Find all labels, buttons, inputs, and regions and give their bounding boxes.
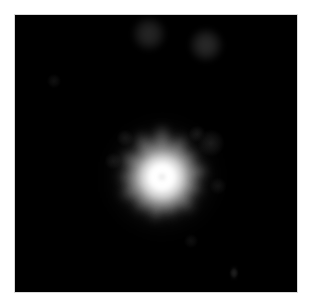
sky-background: Near-infrared / optical image of a brigh…: [15, 15, 297, 292]
halo-spike-e: [167, 156, 217, 190]
halo-spike-ese: [164, 167, 213, 206]
halo-spike-nnw: [122, 120, 171, 177]
halo-spike-ssw: [121, 174, 168, 224]
halo-spike-ne: [160, 138, 211, 184]
image-frame: Near-infrared / optical image of a brigh…: [14, 14, 298, 293]
diffuse-halo-outer: [97, 112, 227, 242]
halo-spike-n: [147, 118, 176, 169]
halo-spike-w: [112, 164, 156, 190]
diffuse-halo-inner: [126, 141, 198, 213]
halo-spike-nne: [153, 122, 200, 177]
halo-spike-se: [156, 173, 207, 226]
halo-spike-sw: [109, 168, 162, 213]
halo-spike-s: [139, 181, 174, 230]
halo-spike-nw: [108, 139, 162, 185]
central-source: [15, 15, 297, 292]
core-disk: [149, 164, 175, 190]
halo-spike-sse: [152, 180, 187, 227]
core-center-dip: [158, 173, 166, 181]
image-page: Near-infrared / optical image of a brigh…: [0, 0, 311, 307]
core-glow: [136, 151, 188, 203]
